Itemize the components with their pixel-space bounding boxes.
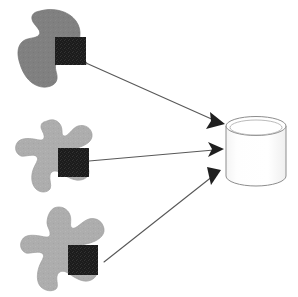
arrow-top-source-to-database <box>86 63 225 129</box>
database-cylinder <box>226 117 286 187</box>
data-source-blob-middle <box>16 120 93 192</box>
diagram-illustration <box>0 0 298 297</box>
data-artifact-square-bottom <box>68 245 98 275</box>
arrowhead-icon <box>207 167 221 185</box>
arrowhead-icon <box>208 142 224 157</box>
data-source-blob-bottom <box>21 207 104 291</box>
arrow-middle-source-to-database <box>89 142 224 161</box>
data-artifact-square-middle <box>58 148 89 177</box>
arrowhead-icon <box>206 112 225 129</box>
diagram-canvas: Data sources feeding a central database <box>0 0 298 297</box>
data-source-blob-top <box>18 9 88 87</box>
cylinder-top-inner-rim <box>230 120 282 135</box>
data-artifact-square-top <box>55 37 86 65</box>
arrow-bottom-source-to-database <box>104 167 221 262</box>
